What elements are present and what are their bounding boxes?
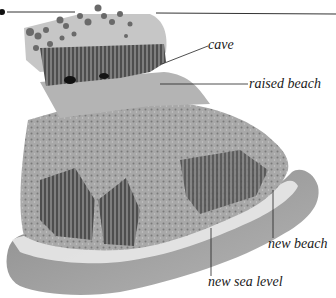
cave-opening [64, 76, 76, 84]
frame-line [0, 9, 336, 15]
diagram-canvas: cave raised beach new beach new sea leve… [0, 0, 336, 298]
landform-illustration [0, 0, 336, 298]
label-new-beach: new beach [268, 237, 327, 251]
label-cave: cave [208, 38, 234, 52]
label-new-sea-level: new sea level [208, 275, 283, 289]
label-raised-beach: raised beach [249, 77, 321, 91]
cave-opening [99, 73, 109, 79]
